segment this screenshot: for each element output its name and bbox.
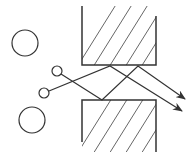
slit-reflection-diagram: [0, 0, 196, 165]
lower-wall: [72, 82, 186, 162]
small-particle-top: [52, 66, 62, 76]
large-particle-top: [12, 30, 38, 56]
small-particle-bottom: [39, 88, 49, 98]
upper-wall: [72, 0, 196, 75]
ray-b: [61, 66, 185, 100]
ray-a: [49, 66, 182, 111]
large-particle-bottom: [19, 107, 45, 133]
